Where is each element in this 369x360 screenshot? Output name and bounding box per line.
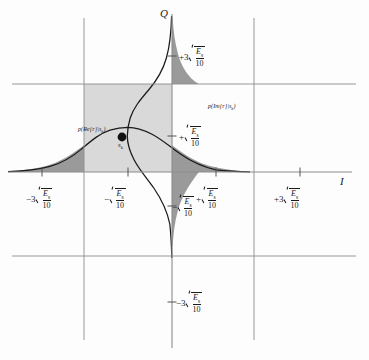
ytick-label-neg1: −Es10: [172, 196, 194, 219]
radical-num-sub: s: [201, 52, 203, 58]
constellation-point-label: sk: [118, 142, 123, 150]
xtick-label-pos1: +Es10: [196, 188, 218, 211]
radical-num-sub: s: [189, 202, 191, 208]
axis-label-i: I: [340, 176, 344, 187]
constellation-pdf-figure: Q I p(Re{r}|sk) p(Im{r}|sk) sk −3Es10 −E…: [0, 0, 369, 360]
radical-num-sub: s: [48, 194, 50, 200]
xtick-label-pos3: +3Es10: [274, 188, 300, 211]
radical-num-sub: s: [196, 132, 198, 138]
imag-pdf-label-text: p(Im{r}|s: [208, 103, 231, 109]
radical-den: 10: [291, 200, 299, 210]
axis-label-q: Q: [160, 8, 168, 19]
radical-den: 10: [116, 200, 124, 210]
xtick-label-neg3: −3Es10: [26, 188, 52, 211]
ytick-label-pos1: +Es10: [179, 126, 201, 149]
radical-den: 10: [191, 138, 199, 148]
radical-num-sub: s: [121, 194, 123, 200]
radical-num-sub: s: [296, 194, 298, 200]
radical-num-sub: s: [198, 298, 200, 304]
radical-den: 10: [193, 304, 201, 314]
ytick-neg1-sign: −: [172, 203, 177, 212]
xtick-pos1-sign: +: [196, 195, 201, 204]
real-pdf-left-tail-fill: [10, 145, 84, 172]
imag-pdf-label-tail: ): [233, 103, 235, 109]
radical-den: 10: [208, 200, 216, 210]
radical-den: 10: [184, 208, 192, 218]
real-pdf-label: p(Re{r}|sk): [78, 126, 106, 135]
radical-den: 10: [43, 200, 51, 210]
ytick-label-neg3: −3Es10: [176, 292, 202, 315]
point-label-sub: k: [121, 145, 123, 150]
xtick-label-neg1: −Es10: [104, 188, 126, 211]
radical-num-sub: s: [213, 194, 215, 200]
real-pdf-label-text: p(Re{r}|s: [78, 126, 101, 132]
radical-den: 10: [196, 58, 204, 68]
imag-pdf-label: p(Im{r}|sk): [208, 103, 236, 112]
xtick-neg1-sign: −: [104, 195, 109, 204]
ytick-label-pos3: +3Es10: [179, 46, 205, 69]
real-pdf-label-tail: ): [103, 126, 105, 132]
ytick-pos1-sign: +: [179, 133, 184, 142]
